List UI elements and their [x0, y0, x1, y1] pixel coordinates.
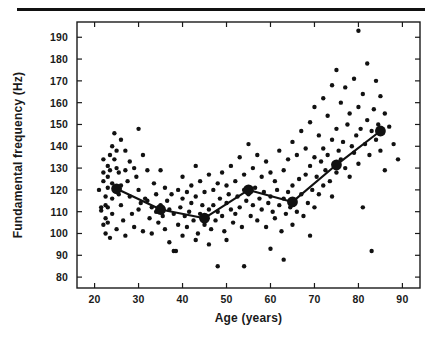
scatter-point [130, 212, 134, 216]
scatter-point [297, 177, 301, 181]
x-tick-label: 30 [133, 293, 145, 305]
scatter-point [110, 144, 114, 148]
scatter-point [374, 79, 378, 83]
scatter-point [220, 170, 224, 174]
scatter-point [251, 203, 255, 207]
scatter-point [229, 164, 233, 168]
scatter-point [391, 142, 395, 146]
scatter-point [211, 188, 215, 192]
scatter-point [180, 196, 184, 200]
scatter-point [259, 207, 263, 211]
scatter-point [273, 216, 277, 220]
scatter-point [152, 181, 156, 185]
y-tick-label: 170 [50, 75, 68, 87]
scatter-point [198, 179, 202, 183]
scatter-point [156, 220, 160, 224]
scatter-plot: 2030405060708090809010011012013014015016… [0, 0, 439, 347]
scatter-point [308, 120, 312, 124]
scatter-point [114, 148, 118, 152]
scatter-point [112, 157, 116, 161]
scatter-point [378, 148, 382, 152]
scatter-point [244, 199, 248, 203]
scatter-point [185, 190, 189, 194]
scatter-point [224, 238, 228, 242]
scatter-point [248, 214, 252, 218]
scatter-point [339, 100, 343, 104]
scatter-point [277, 148, 281, 152]
scatter-point [176, 188, 180, 192]
scatter-point [136, 127, 140, 131]
scatter-point [194, 194, 198, 198]
scatter-point [136, 188, 140, 192]
scatter-point [295, 209, 299, 213]
scatter-point [216, 181, 220, 185]
scatter-point [106, 186, 110, 190]
scatter-point [383, 111, 387, 115]
scatter-point [275, 188, 279, 192]
scatter-point [154, 192, 158, 196]
scatter-point [99, 208, 103, 212]
scatter-point [295, 153, 299, 157]
scatter-point [308, 233, 312, 237]
scatter-point [336, 148, 340, 152]
x-tick-label: 40 [176, 293, 188, 305]
scatter-point [178, 205, 182, 209]
scatter-point [257, 196, 261, 200]
scatter-point [396, 157, 400, 161]
scatter-point [314, 175, 318, 179]
scatter-point [372, 107, 376, 111]
y-tick-label: 190 [50, 31, 68, 43]
scatter-point [224, 183, 228, 187]
scatter-point [325, 153, 329, 157]
scatter-point [290, 183, 294, 187]
scatter-point [334, 127, 338, 131]
scatter-point [328, 179, 332, 183]
scatter-point [196, 231, 200, 235]
scatter-point [185, 225, 189, 229]
scatter-point [367, 153, 371, 157]
scatter-point [174, 249, 178, 253]
scatter-point [358, 127, 362, 131]
mean-marker [199, 213, 210, 224]
scatter-point [189, 183, 193, 187]
y-tick-label: 160 [50, 97, 68, 109]
x-tick-label: 80 [352, 293, 364, 305]
scatter-point [114, 166, 118, 170]
scatter-point [312, 155, 316, 159]
y-tick-label: 120 [50, 184, 68, 196]
scatter-point [121, 218, 125, 222]
scatter-point [281, 257, 285, 261]
x-tick-label: 50 [220, 293, 232, 305]
scatter-point [222, 229, 226, 233]
scatter-point [103, 194, 107, 198]
scatter-point [187, 209, 191, 213]
scatter-point [330, 138, 334, 142]
scatter-point [238, 155, 242, 159]
scatter-point [343, 85, 347, 89]
scatter-point [123, 168, 127, 172]
scatter-point [255, 218, 259, 222]
scatter-point [369, 249, 373, 253]
scatter-point [240, 225, 244, 229]
scatter-point [290, 223, 294, 227]
mean-marker [243, 184, 254, 195]
scatter-point [110, 212, 114, 216]
scatter-point [97, 188, 101, 192]
scatter-point [317, 133, 321, 137]
scatter-point [284, 212, 288, 216]
mean-marker [111, 183, 122, 194]
scatter-point [268, 170, 272, 174]
scatter-point [108, 168, 112, 172]
scatter-point [365, 61, 369, 65]
scatter-point [343, 166, 347, 170]
scatter-point [303, 172, 307, 176]
y-tick-label: 130 [50, 162, 68, 174]
scatter-point [194, 164, 198, 168]
scatter-point [207, 207, 211, 211]
scatter-point [277, 203, 281, 207]
scatter-point [268, 247, 272, 251]
scatter-point [163, 186, 167, 190]
scatter-point [141, 229, 145, 233]
scatter-point [106, 220, 110, 224]
scatter-point [255, 153, 259, 157]
